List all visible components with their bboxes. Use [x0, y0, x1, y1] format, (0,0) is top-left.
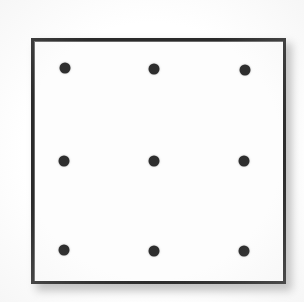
marker-r2-c1 — [59, 156, 70, 167]
marker-grid — [0, 0, 304, 302]
marker-r2-c3 — [239, 156, 250, 167]
marker-r3-c3 — [239, 246, 250, 257]
marker-r3-c1 — [59, 245, 70, 256]
marker-r1-c3 — [240, 65, 251, 76]
marker-r1-c2 — [149, 64, 160, 75]
figure-canvas — [0, 0, 304, 302]
marker-r1-c1 — [60, 63, 71, 74]
marker-r3-c2 — [149, 246, 160, 257]
marker-r2-c2 — [149, 156, 160, 167]
